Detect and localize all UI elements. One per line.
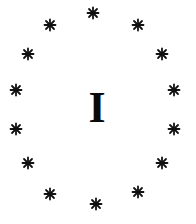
asterisk-icon (9, 83, 23, 97)
asterisk-icon (86, 6, 100, 20)
asterisk-icon (21, 47, 35, 61)
card: I (0, 0, 196, 224)
asterisk-icon (155, 156, 169, 170)
asterisk-icon (43, 18, 57, 32)
asterisk-icon (89, 197, 103, 211)
asterisk-icon (167, 83, 181, 97)
asterisk-icon (43, 187, 57, 201)
asterisk-icon (155, 47, 169, 61)
asterisk-icon (131, 18, 145, 32)
roman-numeral: I (86, 88, 108, 128)
asterisk-icon (167, 122, 181, 136)
asterisk-icon (131, 185, 145, 199)
asterisk-icon (21, 156, 35, 170)
asterisk-icon (9, 122, 23, 136)
